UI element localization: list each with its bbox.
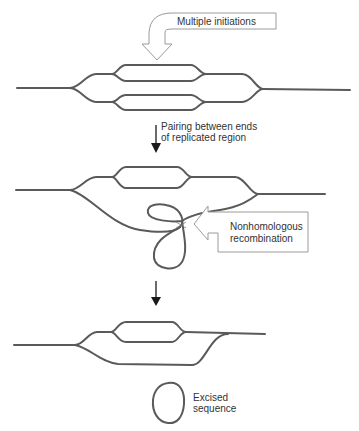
dna-strand xyxy=(242,74,350,90)
dna-strand xyxy=(112,74,206,81)
stage-2-recombination: Nonhomologous recombination xyxy=(16,167,325,268)
dna-strand xyxy=(70,88,112,102)
replication-recombination-diagram: Multiple initiations Pairing between end… xyxy=(0,0,359,431)
dna-strand xyxy=(17,74,112,88)
dna-strand xyxy=(111,322,265,334)
excised-label-line1: Excised xyxy=(193,392,228,403)
excised-label-line2: sequence xyxy=(193,403,237,414)
down-arrow-head-icon xyxy=(151,297,161,306)
pairing-label-line2: of replicated region xyxy=(161,132,246,143)
dna-strand xyxy=(16,177,112,190)
recombination-loop-upper xyxy=(148,204,183,227)
nonhomologous-label-line1: Nonhomologous xyxy=(230,221,303,232)
dna-strand xyxy=(242,89,263,102)
dna-strand xyxy=(112,95,242,102)
nonhomologous-label-line2: recombination xyxy=(230,233,293,244)
dna-strand xyxy=(235,177,325,194)
dna-strand xyxy=(112,65,242,74)
dna-strand xyxy=(112,102,206,110)
step-arrow-1: Pairing between ends of replicated regio… xyxy=(151,121,257,153)
dna-strand xyxy=(14,332,111,345)
stage-1-multiple-initiations: Multiple initiations xyxy=(17,13,350,110)
dna-strand xyxy=(111,332,186,342)
dna-strand xyxy=(112,177,192,188)
dna-strand xyxy=(75,334,228,365)
dna-strand xyxy=(112,167,235,177)
step-arrow-2 xyxy=(151,281,161,306)
down-arrow-head-icon xyxy=(151,143,161,153)
stage-3-result: Excised sequence xyxy=(14,322,265,423)
recombination-loop-lower xyxy=(154,221,185,268)
dna-strand xyxy=(70,190,180,232)
pairing-label-line1: Pairing between ends xyxy=(161,121,257,132)
multiple-initiations-label: Multiple initiations xyxy=(177,16,256,27)
excised-sequence-circle xyxy=(153,383,184,423)
